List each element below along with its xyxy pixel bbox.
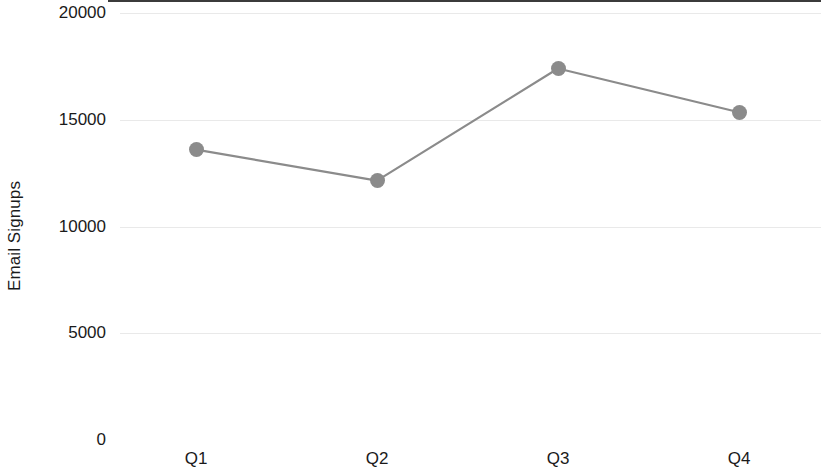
y-axis-tick-label: 5000	[68, 323, 106, 343]
y-axis-tick-label: 10000	[59, 217, 106, 237]
gridline	[120, 13, 821, 14]
data-point-marker	[551, 61, 566, 76]
line-chart: Email Signups 20000150001000050000 Q1Q2Q…	[0, 0, 821, 471]
y-axis-title-label: Email Signups	[5, 181, 25, 291]
data-point-marker	[189, 142, 204, 157]
gridline	[120, 227, 821, 228]
data-point-marker	[732, 105, 747, 120]
data-point-marker	[370, 173, 385, 188]
series-line-email-signups	[0, 0, 821, 471]
y-axis-tick-label: 20000	[59, 3, 106, 23]
gridline	[120, 120, 821, 121]
x-axis-tick-label: Q4	[728, 449, 751, 469]
gridline	[120, 333, 821, 334]
y-axis-tick-label: 0	[97, 430, 106, 450]
y-axis-title: Email Signups	[0, 0, 30, 471]
x-axis-tick-label: Q2	[366, 449, 389, 469]
x-axis-tick-label: Q1	[185, 449, 208, 469]
x-axis-tick-label: Q3	[547, 449, 570, 469]
y-axis-tick-label: 15000	[59, 110, 106, 130]
x-axis-line	[108, 0, 821, 2]
